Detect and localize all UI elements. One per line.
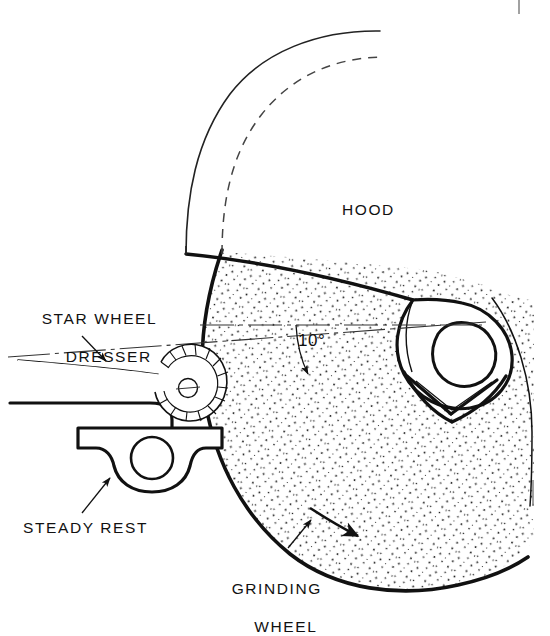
label-star-wheel-dresser-line2: DRESSER	[66, 347, 152, 366]
steady-rest-bore	[131, 437, 173, 479]
label-angle-10-degrees: 10°	[298, 331, 325, 351]
leader-steady-rest	[82, 478, 110, 513]
steady-rest	[78, 428, 222, 492]
label-steady-rest: STEADY REST	[23, 518, 148, 537]
label-grinding-wheel: GRINDING WHEEL	[208, 560, 322, 636]
label-star-wheel-dresser: STAR WHEEL DRESSER	[18, 290, 157, 385]
label-grinding-wheel-line1: GRINDING	[232, 580, 322, 597]
hood	[186, 31, 382, 254]
grinding-wheel	[186, 250, 534, 591]
dresser-arm-bottom-edge	[10, 403, 172, 430]
label-grinding-wheel-line2: WHEEL	[254, 617, 317, 636]
grinding-wheel-fill	[203, 252, 534, 591]
hood-inner-arc-dashed	[222, 57, 382, 254]
work-nose-inner-circle	[433, 322, 496, 386]
label-hood: HOOD	[342, 200, 395, 219]
label-star-wheel-dresser-line1: STAR WHEEL	[42, 310, 158, 327]
hood-outer-arc	[186, 31, 380, 254]
